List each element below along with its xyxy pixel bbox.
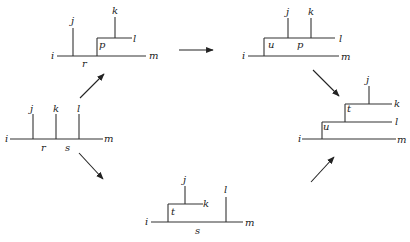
node-label: i	[145, 216, 148, 227]
node-label: i	[5, 133, 8, 144]
arrow-icon	[79, 153, 103, 179]
tree-start: ijklrsm	[5, 103, 113, 153]
node-label: l	[395, 116, 398, 127]
node-label: k	[308, 6, 314, 17]
node-label: l	[77, 103, 80, 114]
node-label: j	[181, 174, 186, 185]
node-label: k	[203, 198, 209, 209]
arrow-icon	[80, 74, 104, 98]
node-label: r	[41, 142, 47, 153]
node-label: u	[268, 39, 274, 50]
node-label: j	[284, 6, 289, 17]
node-label: p	[99, 39, 106, 50]
arrow-layer	[79, 50, 339, 182]
node-label: t	[347, 103, 352, 114]
node-label: k	[53, 103, 59, 114]
node-label: l	[339, 33, 342, 44]
node-label: u	[323, 121, 329, 132]
node-label: k	[112, 5, 118, 16]
arrow-icon	[311, 157, 334, 182]
node-label: j	[364, 74, 369, 85]
node-label: l	[133, 33, 136, 44]
node-label: m	[149, 50, 158, 61]
tree-top-right: ijkuplm	[242, 6, 350, 62]
tree-top-left: ijkplrm	[51, 5, 158, 69]
node-label: i	[51, 50, 54, 61]
node-label: m	[341, 51, 350, 62]
node-label: p	[297, 39, 304, 50]
node-label: l	[224, 184, 227, 195]
tree-bottom: ijktlsm	[145, 174, 254, 236]
node-label: k	[394, 98, 400, 109]
node-label: m	[245, 217, 254, 228]
node-label: m	[104, 133, 113, 144]
node-label: s	[195, 225, 200, 236]
node-label: i	[242, 50, 245, 61]
node-label: t	[171, 206, 176, 217]
node-label: m	[397, 134, 406, 145]
node-label: j	[69, 15, 74, 26]
node-label: r	[82, 58, 88, 69]
tree-right: ijktlum	[298, 74, 406, 145]
arrow-icon	[313, 70, 339, 96]
tree-transformation-diagram: ijklrsmijkplrmijkuplmijktlumijktlsm	[0, 0, 410, 242]
diagram-layer: ijklrsmijkplrmijkuplmijktlumijktlsm	[5, 5, 406, 236]
node-label: j	[28, 103, 33, 114]
node-label: i	[298, 133, 301, 144]
node-label: s	[65, 142, 70, 153]
